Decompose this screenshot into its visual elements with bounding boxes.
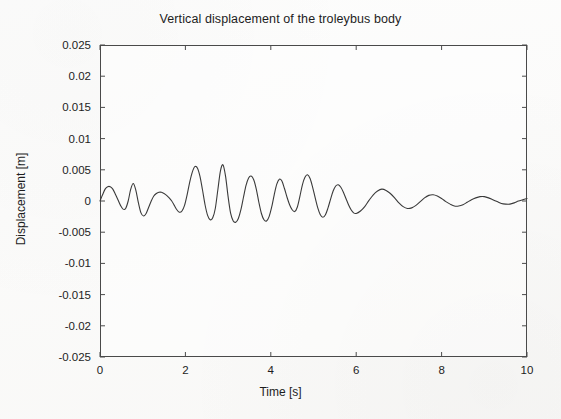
y-tick-label-8: 0.015 (0, 101, 91, 113)
y-tick-label-7: 0.01 (0, 133, 91, 145)
x-tick-label-5: 10 (521, 364, 534, 376)
plot-background (100, 45, 527, 357)
x-tick-label-2: 4 (268, 364, 274, 376)
y-tick-label-2: -0.015 (0, 289, 91, 301)
y-tick-label-4: -0.005 (0, 226, 91, 238)
y-tick-label-3: -0.01 (0, 257, 91, 269)
y-tick-label-10: 0.025 (0, 39, 91, 51)
y-tick-label-0: -0.025 (0, 351, 91, 363)
x-tick-label-1: 2 (182, 364, 188, 376)
chart-figure: Vertical displacement of the troleybus b… (0, 0, 561, 419)
y-tick-label-5: 0 (0, 195, 91, 207)
y-tick-label-9: 0.02 (0, 70, 91, 82)
x-tick-label-0: 0 (97, 364, 103, 376)
x-tick-label-3: 6 (353, 364, 359, 376)
y-tick-label-1: -0.02 (0, 320, 91, 332)
x-tick-label-4: 8 (438, 364, 444, 376)
y-tick-label-6: 0.005 (0, 164, 91, 176)
x-axis-label: Time [s] (0, 385, 561, 399)
